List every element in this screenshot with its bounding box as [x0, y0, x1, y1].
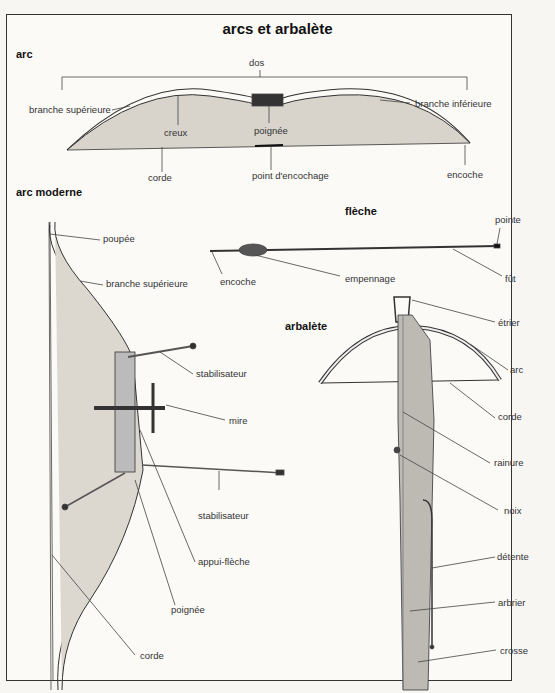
label-encoche-fleche: encoche: [220, 276, 256, 287]
page-title: arcs et arbalète: [0, 20, 555, 37]
label-etrier: étrier: [498, 317, 520, 328]
label-branche-inferieure: branche inférieure: [415, 98, 492, 109]
label-noix: noix: [504, 505, 521, 516]
label-branche-superieure-moderne: branche supérieure: [106, 278, 188, 289]
label-creux: creux: [164, 127, 187, 138]
label-poignee-moderne: poignée: [171, 604, 205, 615]
label-arc-arbalete: arc: [510, 364, 523, 375]
heading-fleche: flèche: [345, 205, 377, 217]
label-crosse: crosse: [500, 645, 528, 656]
label-point-encochage: point d'encochage: [252, 170, 329, 181]
label-rainure: rainure: [494, 457, 524, 468]
heading-arc: arc: [16, 48, 33, 60]
label-poignee: poignée: [254, 125, 288, 136]
label-corde: corde: [148, 172, 172, 183]
label-empennage: empennage: [345, 273, 395, 284]
label-stabilisateur-1: stabilisateur: [196, 368, 247, 379]
label-stabilisateur-2: stabilisateur: [198, 510, 249, 521]
label-appui-fleche: appui-flèche: [198, 556, 250, 567]
heading-arbalete: arbalète: [285, 320, 327, 332]
label-mire: mire: [229, 415, 247, 426]
label-corde-moderne: corde: [140, 650, 164, 661]
label-corde-arbalete: corde: [498, 411, 522, 422]
heading-arc-moderne: arc moderne: [16, 186, 82, 198]
label-branche-superieure: branche supérieure: [29, 104, 111, 115]
label-encoche: encoche: [447, 169, 483, 180]
label-detente: détente: [497, 551, 529, 562]
label-poupee: poupée: [103, 233, 135, 244]
label-dos: dos: [249, 57, 264, 68]
label-pointe: pointe: [495, 214, 521, 225]
label-fut: fût: [505, 273, 516, 284]
label-arbrier: arbrier: [498, 597, 525, 608]
